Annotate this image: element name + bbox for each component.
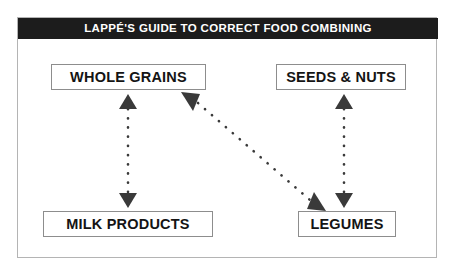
food-group-label-whole-grains: WHOLE GRAINS: [70, 70, 187, 85]
arrowhead-down-right: [335, 193, 353, 208]
arrowhead-diagonal-lower-right: [307, 192, 326, 211]
arrowhead-up-left: [119, 94, 137, 109]
food-group-box-seeds-nuts: SEEDS & NUTS: [276, 64, 406, 90]
connector-whole-grains-legumes: [181, 92, 326, 211]
food-group-box-legumes: LEGUMES: [298, 211, 396, 237]
arrowhead-up-right: [335, 94, 353, 109]
food-group-label-milk-products: MILK PRODUCTS: [66, 217, 189, 232]
arrowhead-down-left: [119, 193, 137, 208]
connector-whole-grains-milk-products: [119, 94, 137, 208]
food-group-box-milk-products: MILK PRODUCTS: [43, 211, 213, 237]
food-group-box-whole-grains: WHOLE GRAINS: [51, 64, 206, 90]
connector-line-diagonal: [198, 103, 310, 200]
food-group-label-legumes: LEGUMES: [310, 217, 383, 232]
diagram-frame: LAPPÉ'S GUIDE TO CORRECT FOOD COMBINING …: [17, 17, 437, 258]
arrowhead-diagonal-upper-left: [181, 92, 200, 111]
food-group-label-seeds-nuts: SEEDS & NUTS: [286, 70, 396, 85]
connector-seeds-nuts-legumes: [335, 94, 353, 208]
